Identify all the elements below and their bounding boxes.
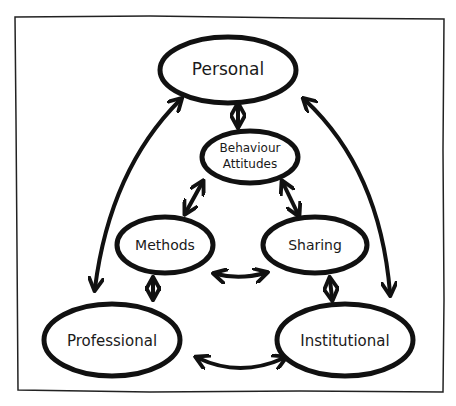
edge-behaviour-sharing [283, 183, 298, 214]
node-personal-label: Personal [192, 59, 264, 79]
node-methods: Methods [117, 217, 213, 273]
node-personal: Personal [160, 37, 296, 103]
node-methods-label: Methods [135, 237, 195, 253]
node-professional-label: Professional [67, 332, 157, 350]
edge-sharing-institutional [330, 280, 332, 298]
node-sharing-label: Sharing [288, 237, 342, 253]
relationship-diagram: Personal Behaviour Attitudes Methods Sha… [0, 0, 456, 406]
node-behaviour-label-line2: Attitudes [223, 157, 277, 171]
node-institutional: Institutional [277, 304, 413, 376]
node-behaviour-attitudes: Behaviour Attitudes [202, 131, 298, 183]
node-sharing: Sharing [263, 217, 367, 273]
node-behaviour-label-line1: Behaviour [220, 141, 281, 155]
edge-professional-institutional [198, 358, 284, 368]
edge-methods-sharing [216, 273, 265, 277]
node-professional: Professional [44, 304, 180, 376]
node-institutional-label: Institutional [300, 332, 389, 350]
edge-behaviour-methods [186, 183, 202, 212]
